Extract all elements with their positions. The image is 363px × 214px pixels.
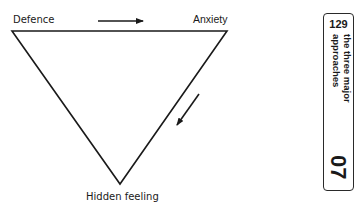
node-label-hidden-feeling: Hidden feeling	[86, 191, 159, 203]
triangle-outline	[12, 31, 227, 184]
chapter-side-tab: 129 the three major approaches 07	[323, 13, 354, 191]
page-number: 129	[324, 18, 353, 30]
chapter-title: the three major approaches	[327, 34, 353, 144]
node-label-anxiety: Anxiety	[193, 13, 227, 25]
node-label-defence: Defence	[13, 14, 55, 26]
chapter-number: 07	[324, 150, 353, 184]
triangle-of-conflict-diagram: Defence Anxiety Hidden feeling	[0, 0, 363, 214]
triangle-graphic	[0, 0, 363, 214]
